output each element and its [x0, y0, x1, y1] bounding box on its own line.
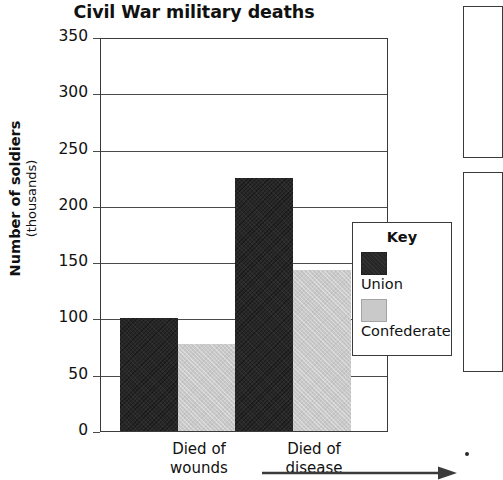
y-tick-mark-300: [93, 94, 100, 95]
page-edge-box-bottom: [463, 172, 503, 372]
legend-swatch-union: [361, 252, 387, 275]
y-tick-label-350: 350: [42, 27, 88, 45]
x-axis-label-line: wounds: [134, 459, 264, 478]
gridline-250: [101, 151, 387, 152]
bar-confederate-1: [293, 270, 351, 431]
x-axis-arrow-icon: [262, 466, 458, 480]
legend-label-confederate: Confederate: [361, 323, 451, 339]
y-tick-label-0: 0: [42, 421, 88, 439]
legend-entry-confederate: Confederate: [361, 299, 451, 339]
bar-union-0: [120, 318, 178, 431]
y-axis-title: Number of soldiers (thousands): [7, 34, 40, 364]
y-axis-title-units: (thousands): [24, 34, 40, 364]
y-tick-mark-250: [93, 151, 100, 152]
gridline-300: [101, 94, 387, 95]
page-edge-dot: [465, 452, 469, 456]
legend-entries: UnionConfederate: [353, 252, 451, 339]
legend-title: Key: [353, 229, 451, 245]
y-tick-mark-0: [93, 432, 100, 433]
plot-area: [100, 38, 388, 432]
x-axis-label-line: Died of: [249, 440, 379, 459]
y-tick-mark-100: [93, 319, 100, 320]
legend-swatch-confederate: [361, 299, 387, 322]
y-tick-mark-50: [93, 376, 100, 377]
y-tick-label-200: 200: [42, 196, 88, 214]
y-tick-label-250: 250: [42, 140, 88, 158]
chart-title: Civil War military deaths: [0, 2, 388, 22]
y-tick-label-300: 300: [42, 83, 88, 101]
y-tick-mark-150: [93, 263, 100, 264]
legend-label-union: Union: [361, 276, 451, 292]
legend-entry-union: Union: [361, 252, 451, 292]
y-tick-label-150: 150: [42, 252, 88, 270]
legend-key-box: Key UnionConfederate: [352, 222, 452, 356]
bar-confederate-0: [178, 344, 236, 431]
y-tick-label-50: 50: [42, 365, 88, 383]
x-axis-label-line: Died of: [134, 440, 264, 459]
y-tick-label-100: 100: [42, 308, 88, 326]
bar-union-1: [235, 178, 293, 431]
x-axis-label-0: Died ofwounds: [134, 440, 264, 477]
y-tick-mark-350: [93, 38, 100, 39]
y-tick-mark-200: [93, 207, 100, 208]
y-axis-title-main: Number of soldiers: [7, 34, 24, 364]
page-edge-box-top: [463, 6, 503, 158]
